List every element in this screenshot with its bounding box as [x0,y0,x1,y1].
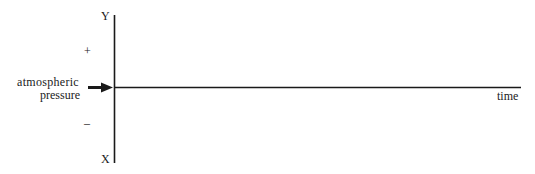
y-axis-top-label: Y [101,10,110,23]
axes-drawing [0,0,535,174]
arrow-right-icon [88,83,113,93]
minus-sign: – [84,117,90,130]
atmospheric-pressure-label-line2: pressure [40,89,80,102]
plus-sign: + [84,45,91,58]
time-axis-label: time [497,90,518,103]
y-axis-bottom-label: X [101,153,110,166]
